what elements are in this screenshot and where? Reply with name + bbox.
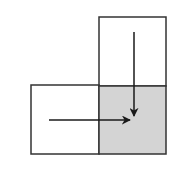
top-cell xyxy=(99,17,166,86)
diagram-canvas xyxy=(0,0,178,173)
